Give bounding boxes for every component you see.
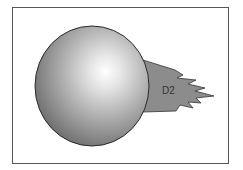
diagram-canvas: D2 <box>0 0 243 170</box>
sphere <box>35 26 149 146</box>
flare-shape-d2 <box>143 60 214 112</box>
flare-label: D2 <box>162 85 175 96</box>
